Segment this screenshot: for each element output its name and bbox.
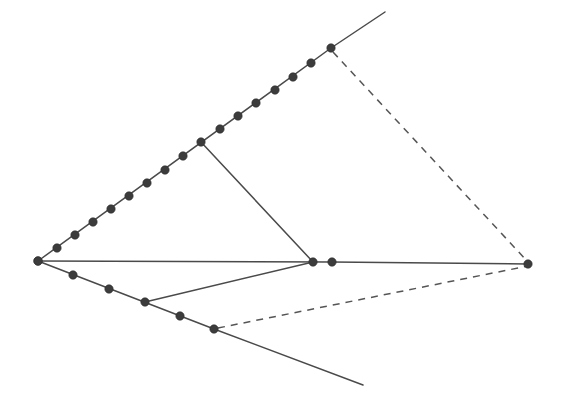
- center-node-pair-dot-1: [328, 258, 336, 266]
- lower-dot-chain-dot-4: [176, 312, 184, 320]
- figure-canvas: [0, 0, 564, 413]
- upper-dot-chain-dot-16: [327, 44, 335, 52]
- upper-dot-chain-dot-1: [53, 244, 61, 252]
- upper-dot-chain-dot-12: [252, 99, 260, 107]
- lower-dot-chain-dot-3: [141, 298, 149, 306]
- lower-dot-chain-dot-2: [105, 285, 113, 293]
- upper-ray-extension: [331, 12, 385, 48]
- upper-dashed-to-right-vertex: [333, 52, 528, 262]
- lower-dashed-to-right-vertex: [218, 266, 528, 328]
- upper-dot-chain-dot-7: [161, 166, 169, 174]
- lower-dot-chain-dot-0: [34, 257, 42, 265]
- line-diagram: [0, 0, 564, 413]
- upper-dot-chain-dot-15: [307, 59, 315, 67]
- upper-dot-chain-dot-10: [216, 125, 224, 133]
- lower-dot-chain-dot-5: [210, 325, 218, 333]
- lower-ray-extension: [214, 329, 363, 385]
- upper-dot-chain-dot-2: [71, 231, 79, 239]
- right-vertex-node-dot-0: [524, 260, 532, 268]
- lower-branch-to-center: [145, 262, 313, 302]
- center-node-pair-dot-0: [309, 258, 317, 266]
- nodes-layer: [34, 44, 532, 333]
- upper-dot-chain-dot-14: [289, 73, 297, 81]
- upper-dot-chain-dot-13: [271, 86, 279, 94]
- upper-dot-chain-dot-8: [179, 152, 187, 160]
- upper-dot-chain-dot-4: [107, 205, 115, 213]
- upper-dot-chain-dot-3: [89, 218, 97, 226]
- lower-dot-chain-dot-1: [69, 271, 77, 279]
- horizontal-axis-right-segment: [332, 262, 528, 264]
- horizontal-axis-left-segment: [38, 261, 332, 262]
- upper-dot-chain-dot-5: [125, 192, 133, 200]
- edges-layer: [38, 12, 528, 385]
- lower-ray-dotted-chain: [38, 261, 214, 329]
- upper-dot-chain-dot-6: [143, 179, 151, 187]
- upper-dot-chain-dot-9: [197, 138, 205, 146]
- upper-branch-to-center: [201, 142, 313, 262]
- upper-dot-chain-dot-11: [234, 112, 242, 120]
